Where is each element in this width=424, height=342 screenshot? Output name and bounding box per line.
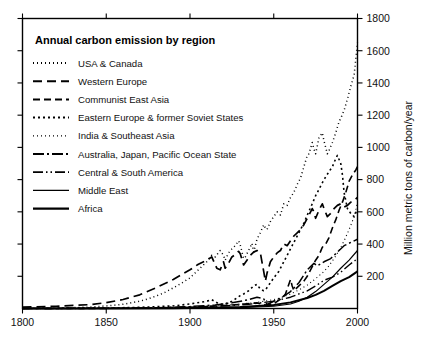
legend-item-label: Communist East Asia [78,94,170,105]
x-tick-label: 2000 [346,316,370,328]
chart-canvas: 20040060080010001200140016001800 1800185… [0,0,424,342]
legend-item-label: Eastern Europe & former Soviet States [78,112,244,123]
y-tick-label: 400 [367,238,385,250]
x-tick-label: 1950 [262,316,286,328]
y-tick-label: 1400 [367,77,391,89]
y-tick-label: 1000 [367,141,391,153]
y-tick-label: 600 [367,206,385,218]
y-axis-label: Million metric tons of carbon/year [402,100,414,255]
y-tick-label: 200 [367,270,385,282]
legend-item-label: Central & South America [78,167,184,178]
x-tick-label: 1800 [11,316,35,328]
y-tick-label: 1200 [367,109,391,121]
legend-item-label: Western Europe [78,76,147,87]
chart-title: Annual carbon emission by region [35,34,216,46]
legend-item-label: India & Southeast Asia [78,130,175,141]
carbon-emission-figure: 20040060080010001200140016001800 1800185… [0,0,424,342]
legend-item-label: Middle East [78,185,128,196]
y-tick-label: 1800 [367,12,391,24]
figure-background [0,0,424,342]
legend-item-label: Africa [78,203,103,214]
y-tick-label: 1600 [367,45,391,57]
legend-item-label: Australia, Japan, Pacific Ocean State [78,149,236,160]
y-tick-label: 800 [367,173,385,185]
legend-item-label: USA & Canada [78,58,143,69]
x-tick-label: 1850 [95,316,119,328]
x-tick-label: 1900 [178,316,202,328]
